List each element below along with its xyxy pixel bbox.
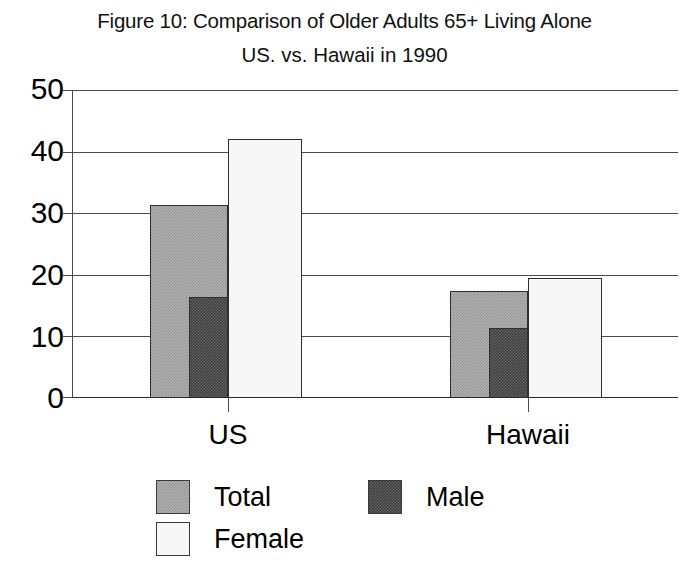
legend-label-female: Female <box>214 522 304 556</box>
y-tick-label-0: 0 <box>8 383 64 413</box>
chart-legend: Total Male Female <box>156 480 576 560</box>
x-axis-label-hawaii: Hawaii <box>428 418 628 452</box>
legend-label-male: Male <box>426 480 485 514</box>
y-tick-mark-30 <box>62 213 72 214</box>
x-tick-mark-hawaii <box>528 398 529 412</box>
x-tick-mark-us <box>228 398 229 412</box>
legend-item-male: Male <box>368 480 485 514</box>
y-tick-mark-40 <box>62 152 72 153</box>
bar-hawaii-female <box>528 278 602 398</box>
legend-label-total: Total <box>214 480 271 514</box>
chart-title-block: Figure 10: Comparison of Older Adults 65… <box>0 4 689 72</box>
y-tick-label-30: 30 <box>8 198 64 228</box>
bar-us-female <box>228 139 302 398</box>
gridline-40 <box>72 152 678 153</box>
x-axis-line <box>72 397 678 398</box>
bar-us-male <box>189 297 228 398</box>
legend-swatch-total-icon <box>156 480 190 514</box>
bar-hawaii-male <box>489 328 528 398</box>
y-tick-mark-20 <box>62 275 72 276</box>
y-tick-mark-10 <box>62 336 72 337</box>
chart-title-line-1: Figure 10: Comparison of Older Adults 65… <box>0 4 689 38</box>
y-tick-label-40: 40 <box>8 136 64 166</box>
y-tick-mark-0 <box>62 397 72 398</box>
y-tick-label-50: 50 <box>8 74 64 104</box>
legend-item-female: Female <box>156 522 304 556</box>
y-tick-label-10: 10 <box>8 322 64 352</box>
gridline-50 <box>72 90 678 91</box>
chart-title-line-2: US. vs. Hawaii in 1990 <box>0 38 689 72</box>
plot-area <box>72 90 678 398</box>
figure-chart: Figure 10: Comparison of Older Adults 65… <box>0 0 689 575</box>
y-tick-mark-50 <box>62 90 72 91</box>
legend-item-total: Total <box>156 480 271 514</box>
legend-swatch-female-icon <box>156 522 190 556</box>
legend-swatch-male-icon <box>368 480 402 514</box>
legend-row-2: Female <box>156 520 576 560</box>
legend-row-1: Total Male <box>156 480 576 520</box>
x-axis-label-us: US <box>128 418 328 452</box>
y-tick-label-20: 20 <box>8 260 64 290</box>
y-axis-line <box>72 90 73 398</box>
